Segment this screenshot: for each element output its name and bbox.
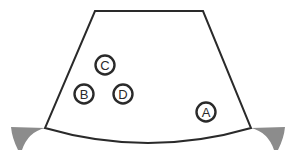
marker-c[interactable]: C [96,56,115,75]
trapezoid-body-shape [45,11,251,143]
marker-a-label: A [202,105,211,120]
marker-d-label: D [118,87,127,102]
marker-b[interactable]: B [75,85,94,104]
marker-b-label: B [80,87,89,102]
marker-a[interactable]: A [197,103,216,122]
diagram-canvas: C B D A [0,0,294,161]
marker-c-label: C [100,58,109,73]
marker-d[interactable]: D [114,85,133,104]
diagram-svg: C B D A [0,0,294,161]
wedge-left-shape [11,127,45,150]
wedge-right-shape [251,127,285,150]
